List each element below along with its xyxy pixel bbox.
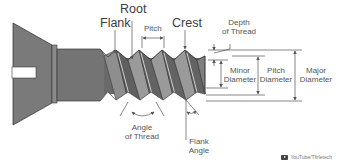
label-depth-of-thread: Depth of Thread <box>214 18 264 36</box>
youtube-icon <box>281 155 288 160</box>
watermark: YouTube/Tfirletech <box>281 154 332 160</box>
thread-section <box>100 49 205 104</box>
screw-thread-diagram: Flank Root Pitch Crest Depth of Thread M… <box>0 0 340 168</box>
collar <box>52 45 57 103</box>
label-root: Root <box>120 2 146 16</box>
label-pitch: Pitch <box>144 24 162 33</box>
label-angle-of-thread: Angle of Thread <box>118 123 166 141</box>
angle-of-thread-marker <box>120 102 164 116</box>
screwdriver-slot <box>12 67 36 78</box>
label-flank: Flank <box>100 16 131 30</box>
label-flank-angle: Flank Angle <box>186 137 212 155</box>
label-major-diameter: Major Diameter <box>296 66 336 84</box>
bolt-shank <box>57 49 108 101</box>
flank-angle-marker <box>186 100 199 140</box>
label-minor-diameter: Minor Diameter <box>222 66 258 84</box>
bolt-head <box>12 23 57 125</box>
label-crest: Crest <box>172 16 202 30</box>
label-pitch-diameter: Pitch Diameter <box>258 66 294 84</box>
